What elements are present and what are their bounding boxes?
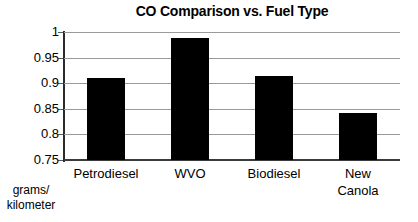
bar bbox=[171, 38, 209, 160]
gridline bbox=[64, 32, 400, 33]
y-axis-unit-caption: grams/ kilometer bbox=[0, 183, 62, 213]
chart-title: CO Comparison vs. Fuel Type bbox=[0, 3, 418, 19]
plot-area bbox=[64, 32, 400, 160]
x-axis-category-label: Biodiesel bbox=[232, 165, 316, 182]
bar bbox=[255, 76, 293, 160]
y-axis-tick-label: 0.9 bbox=[3, 76, 59, 89]
bar-chart: CO Comparison vs. Fuel Type 10.950.90.85… bbox=[0, 0, 418, 222]
y-axis-tick-label: 0.85 bbox=[3, 102, 59, 115]
bar bbox=[87, 78, 125, 160]
x-axis-category-label: New Canola bbox=[316, 165, 400, 199]
y-axis-tick-label: 1 bbox=[3, 25, 59, 38]
gridline bbox=[64, 58, 400, 59]
y-axis-tick-label: 0.95 bbox=[3, 51, 59, 64]
y-axis-tick-label: 0.75 bbox=[3, 153, 59, 166]
x-axis-category-label: Petrodiesel bbox=[64, 165, 148, 182]
x-axis-category-label: WVO bbox=[148, 165, 232, 182]
bar bbox=[339, 113, 377, 160]
x-axis-category-labels: PetrodieselWVOBiodieselNew Canola bbox=[64, 165, 400, 215]
y-axis-tick-label: 0.8 bbox=[3, 127, 59, 140]
